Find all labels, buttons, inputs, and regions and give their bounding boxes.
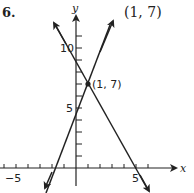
- falling-line-arrow-top: [54, 23, 66, 44]
- falling-line-arrow-bottom: [140, 175, 149, 191]
- x-tick-label-neg5: −5: [5, 172, 21, 185]
- y-tick-label-5: 5: [66, 102, 73, 115]
- graph: (1, 7) 10 5 −5 5 x y: [0, 0, 194, 193]
- x-axis-label: x: [180, 162, 187, 175]
- y-axis-label: y: [71, 2, 79, 15]
- rising-line-arrow-top: [100, 21, 113, 52]
- y-ticks: [76, 36, 82, 156]
- intersection-point: [85, 81, 90, 86]
- y-tick-label-10: 10: [60, 42, 74, 55]
- x-tick-label-5: 5: [132, 172, 139, 185]
- point-label: (1, 7): [92, 78, 122, 91]
